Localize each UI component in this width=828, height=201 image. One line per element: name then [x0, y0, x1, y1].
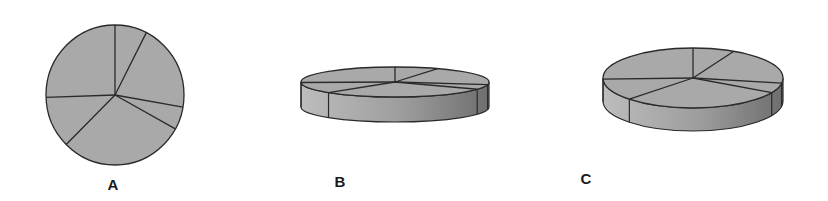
- panel-label-c: C: [581, 170, 592, 187]
- panel-label-b: B: [335, 173, 346, 190]
- pie-chart-b-3d-steep: [301, 67, 489, 122]
- pie-comparison-figure: A B C: [0, 0, 828, 201]
- pie-charts-canvas: [0, 0, 828, 201]
- pie-slice-divider: [301, 82, 395, 83]
- pie-chart-a-flat: [46, 25, 184, 165]
- pie-chart-c-3d-moderate: [603, 48, 783, 131]
- panel-label-a: A: [108, 176, 119, 193]
